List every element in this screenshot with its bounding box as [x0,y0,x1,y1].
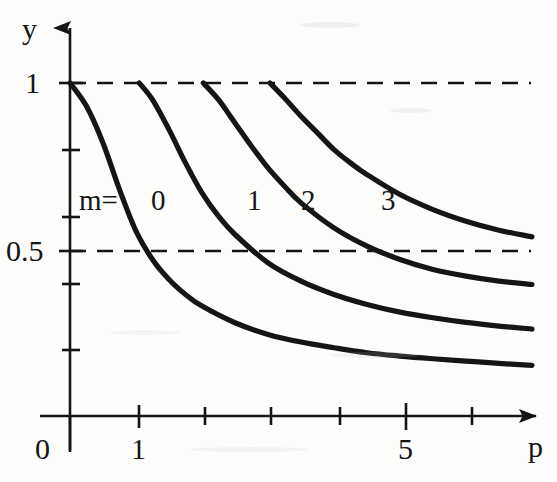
curve-label-m2: 2 [301,186,316,215]
curve-m1 [139,83,532,329]
y-axis-label: y [22,14,37,44]
y-tick-label-1: 1 [25,68,40,98]
y-tick-label-05: 0.5 [6,236,44,266]
origin-label: 0 [35,434,50,464]
m-equals-label: m= [79,186,118,215]
x-axis [40,403,536,452]
x-tick-label-5: 5 [398,434,413,464]
x-tick-label-1: 1 [131,434,146,464]
curve-label-m1: 1 [247,186,262,215]
figure-canvas: y p 1 0.5 0 1 5 m= 0 1 2 3 [0,0,557,482]
plot-area [0,0,557,482]
curve-label-m0: 0 [151,186,166,215]
x-axis-label: p [528,432,543,462]
curve-group [70,83,532,365]
curve-label-m3: 3 [381,186,396,215]
